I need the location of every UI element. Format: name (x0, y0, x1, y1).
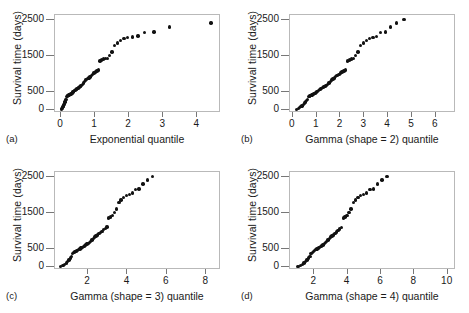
x-axis-tick-label: 8 (411, 275, 417, 286)
data-point (356, 50, 359, 53)
x-axis-tick-label: 10 (441, 275, 452, 286)
y-axis-tick: 1500 (281, 212, 289, 213)
x-axis-tick: 1 (94, 112, 95, 117)
y-axis-tick-label: 2500 (22, 13, 44, 24)
x-axis-tick: 3 (162, 112, 163, 117)
scatter-points-c (55, 172, 219, 268)
x-axis-tick: 4 (387, 112, 388, 117)
x-axis-tick-label: 4 (384, 118, 390, 129)
y-axis-tick: 0 (281, 109, 289, 110)
panel-letter: (a) (6, 133, 18, 144)
y-axis-tick: 0 (46, 109, 54, 110)
data-point (380, 178, 383, 181)
x-axis-tick: 8 (413, 269, 414, 274)
y-axis-tick: 1500 (281, 55, 289, 56)
data-point (209, 21, 212, 24)
data-point (340, 226, 343, 229)
y-axis-tick: 500 (281, 248, 289, 249)
x-axis-tick: 4 (196, 112, 197, 117)
data-point (389, 25, 392, 28)
x-axis-tick: 6 (435, 112, 436, 117)
y-axis-tick: 2500 (46, 176, 54, 177)
data-point (110, 50, 113, 53)
x-axis-tick-label: 8 (202, 275, 208, 286)
data-point (64, 98, 67, 101)
data-point (352, 57, 355, 60)
y-axis-tick-label: 500 (262, 85, 279, 96)
panel-a: Survival time (days) 05001500250001234 E… (0, 0, 234, 156)
plot-area-d (289, 171, 455, 269)
figure-qq-plots-panel-grid: Survival time (days) 05001500250001234 E… (0, 0, 469, 313)
data-point (395, 21, 398, 24)
data-point (344, 68, 347, 71)
data-point (306, 98, 309, 101)
x-axis-tick-label: 2 (310, 275, 316, 286)
x-axis-tick: 10 (447, 269, 448, 274)
data-point (136, 34, 139, 37)
x-axis-tick-label: 2 (84, 275, 90, 286)
x-axis-tick-label: 1 (313, 118, 319, 129)
x-axis-label: Exponential quantile (40, 133, 234, 145)
data-point (308, 255, 311, 258)
y-axis-tick-label: 1500 (22, 206, 44, 217)
x-axis-label: Gamma (shape = 2) quantile (275, 133, 469, 145)
y-axis-tick-label: 1500 (257, 49, 279, 60)
y-axis-tick-label: 2500 (257, 13, 279, 24)
data-point (362, 41, 365, 44)
y-axis-tick: 500 (46, 248, 54, 249)
y-axis-tick-label: 500 (27, 85, 44, 96)
x-axis-tick-label: 2 (337, 118, 343, 129)
data-point (402, 18, 405, 21)
data-point (365, 191, 368, 194)
x-axis-tick-label: 3 (159, 118, 165, 129)
plot-area-b (289, 14, 455, 112)
data-point (384, 30, 387, 33)
panel-letter: (b) (241, 133, 253, 144)
data-point (372, 187, 375, 190)
panel-letter: (d) (241, 290, 253, 301)
panel-b: Survival time (days) 0500150025000123456… (235, 0, 469, 156)
data-point (143, 31, 146, 34)
y-axis-tick: 0 (46, 266, 54, 267)
x-axis-tick: 4 (347, 269, 348, 274)
data-point (141, 182, 144, 185)
y-axis-tick-label: 1500 (257, 206, 279, 217)
x-axis-tick: 0 (60, 112, 61, 117)
x-axis-tick-label: 2 (125, 118, 131, 129)
x-axis-tick-label: 4 (193, 118, 199, 129)
x-axis-tick-label: 4 (344, 275, 350, 286)
y-axis-tick: 2500 (46, 19, 54, 20)
x-axis-tick-label: 0 (289, 118, 295, 129)
data-point (116, 41, 119, 44)
scatter-points-b (290, 15, 454, 111)
plot-area-c (54, 171, 220, 269)
data-point (151, 175, 154, 178)
y-axis-tick: 0 (281, 266, 289, 267)
panel-letter: (c) (6, 290, 17, 301)
x-axis-tick-label: 0 (57, 118, 63, 129)
data-point (111, 214, 114, 217)
x-axis-label: Gamma (shape = 4) quantile (275, 290, 469, 302)
data-point (70, 255, 73, 258)
data-point (115, 207, 118, 210)
x-axis-tick: 8 (205, 269, 206, 274)
data-point (146, 178, 149, 181)
data-point (106, 57, 109, 60)
data-point (105, 225, 108, 228)
x-axis-tick-label: 5 (408, 118, 414, 129)
x-axis-tick: 6 (380, 269, 381, 274)
scatter-points-a (55, 15, 219, 111)
y-axis-tick: 500 (46, 91, 54, 92)
y-axis-tick: 500 (281, 91, 289, 92)
x-axis-tick-label: 6 (432, 118, 438, 129)
data-point (376, 182, 379, 185)
x-axis-tick: 3 (363, 112, 364, 117)
x-axis-tick: 4 (126, 269, 127, 274)
x-axis-tick: 2 (313, 269, 314, 274)
data-point (97, 68, 100, 71)
data-point (131, 35, 134, 38)
x-axis-tick-label: 6 (163, 275, 169, 286)
data-point (113, 211, 116, 214)
y-axis-tick-label: 0 (273, 103, 279, 114)
data-point (152, 30, 155, 33)
